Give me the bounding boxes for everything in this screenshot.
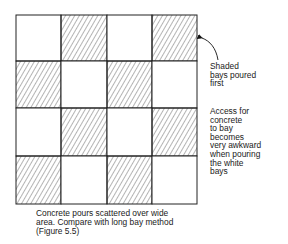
white-bay: [152, 156, 197, 204]
shaded-bay: [152, 108, 197, 156]
access-note: Access for concrete to bay becomes very …: [210, 107, 261, 176]
white-bay: [16, 108, 61, 156]
white-bay: [107, 108, 152, 156]
note-line: first: [210, 79, 256, 88]
shaded-bay: [16, 61, 61, 108]
shaded-bay: [61, 108, 107, 156]
white-bay: [107, 15, 152, 61]
white-bay: [16, 15, 61, 61]
white-bay: [152, 61, 197, 108]
caption-line: (Figure 5.5): [36, 227, 173, 236]
white-bay: [61, 61, 107, 108]
figure-caption: Concrete pours scattered over wide area.…: [36, 209, 173, 236]
shaded-bays-note: Shaded bays poured first: [210, 62, 256, 88]
shaded-bay: [107, 61, 152, 108]
shaded-bay: [107, 156, 152, 204]
arrow-icon: [202, 38, 218, 60]
bay-grid: [16, 15, 197, 204]
shaded-bay: [61, 15, 107, 61]
note-line: bays: [210, 167, 261, 176]
shaded-bay: [16, 156, 61, 204]
shaded-bay: [152, 15, 197, 61]
white-bay: [61, 156, 107, 204]
